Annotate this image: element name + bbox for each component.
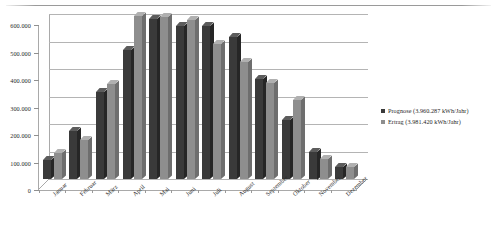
bar-side-face — [328, 156, 332, 179]
bar-front-face — [69, 131, 77, 179]
bar-prognose-januar[interactable] — [43, 160, 51, 179]
legend-label-ertrag: Ertrag (3.981.420 kWh/Jahr) — [388, 118, 461, 126]
y-axis-tick-label: 0 — [28, 187, 31, 194]
bar-front-face — [187, 20, 195, 179]
legend-swatch-icon-prognose — [381, 109, 385, 113]
bar-front-face — [255, 79, 263, 179]
bar-ertrag-september[interactable] — [266, 83, 274, 179]
bar-front-face — [229, 37, 237, 179]
bar-prognose-november[interactable] — [309, 152, 317, 180]
bar-front-face — [54, 153, 62, 179]
energy-yield-bar-chart: 600.000500.000400.000300.000200.000100.0… — [0, 0, 497, 238]
bar-front-face — [240, 62, 248, 179]
x-axis-labels: JanuarFebruarMärzAprilMaiJuniJuliAugustS… — [38, 192, 368, 238]
bar-ertrag-august[interactable] — [240, 62, 248, 179]
x-axis-tick — [225, 190, 226, 193]
y-axis-tick-label: 300.000 — [10, 104, 31, 111]
bar-side-face — [115, 81, 119, 179]
legend-item-ertrag[interactable]: Ertrag (3.981.420 kWh/Jahr) — [381, 118, 493, 126]
bar-front-face — [149, 19, 157, 179]
bar-front-face — [80, 140, 88, 179]
bar-side-face — [168, 14, 172, 179]
y-axis-tick-label: 200.000 — [10, 132, 31, 139]
x-axis-tick — [171, 190, 172, 193]
x-axis-tick — [251, 190, 252, 193]
y-axis-tick-label: 500.000 — [10, 49, 31, 56]
bar-prognose-märz[interactable] — [96, 92, 104, 179]
bar-prognose-august[interactable] — [229, 37, 237, 179]
x-axis-tick — [92, 190, 93, 193]
x-axis-tick — [118, 190, 119, 193]
bar-side-face — [274, 79, 278, 179]
bar-side-face — [142, 13, 146, 179]
x-axis-tick — [278, 190, 279, 193]
bar-front-face — [293, 100, 301, 179]
bar-front-face — [320, 159, 328, 179]
x-axis-tick — [198, 190, 199, 193]
chart-legend: Prognose (3.960.287 kWh/Jahr) Ertrag (3.… — [381, 107, 493, 129]
bar-front-face — [309, 152, 317, 180]
y-axis-tick-label: 600.000 — [10, 22, 31, 29]
bar-ertrag-juni[interactable] — [187, 20, 195, 179]
bar-ertrag-januar[interactable] — [54, 153, 62, 179]
bar-side-face — [62, 149, 66, 179]
bar-side-face — [195, 17, 199, 179]
y-axis-tick-label: 100.000 — [10, 159, 31, 166]
bar-ertrag-april[interactable] — [134, 16, 142, 179]
bar-side-face — [88, 136, 92, 179]
bar-side-face — [221, 41, 225, 179]
bars-layer — [38, 14, 368, 190]
bar-front-face — [176, 26, 184, 179]
bar-ertrag-mai[interactable] — [160, 17, 168, 179]
bar-prognose-april[interactable] — [123, 50, 131, 179]
bar-front-face — [134, 16, 142, 179]
legend-item-prognose[interactable]: Prognose (3.960.287 kWh/Jahr) — [381, 107, 493, 115]
bar-front-face — [96, 92, 104, 179]
x-axis-tick — [145, 190, 146, 193]
bar-prognose-september[interactable] — [255, 79, 263, 179]
x-axis-tick — [304, 190, 305, 193]
bar-prognose-juni[interactable] — [176, 26, 184, 179]
bar-ertrag-juli[interactable] — [213, 44, 221, 179]
bar-prognose-oktober[interactable] — [282, 120, 290, 179]
legend-label-prognose: Prognose (3.960.287 kWh/Jahr) — [388, 107, 469, 115]
x-axis-tick — [65, 190, 66, 193]
bar-ertrag-oktober[interactable] — [293, 100, 301, 179]
bar-ertrag-november[interactable] — [320, 159, 328, 179]
bar-side-face — [301, 96, 305, 179]
bar-front-face — [346, 167, 354, 179]
plot-area: 600.000500.000400.000300.000200.000100.0… — [38, 14, 368, 190]
bar-front-face — [213, 44, 221, 179]
bar-front-face — [107, 84, 115, 179]
bar-prognose-februar[interactable] — [69, 131, 77, 179]
bar-side-face — [354, 164, 358, 179]
bar-front-face — [43, 160, 51, 179]
bar-ertrag-februar[interactable] — [80, 140, 88, 179]
legend-swatch-icon-ertrag — [381, 120, 385, 124]
bar-prognose-mai[interactable] — [149, 19, 157, 179]
top-divider-rule — [6, 5, 491, 6]
bar-front-face — [282, 120, 290, 179]
bar-side-face — [248, 59, 252, 179]
bar-front-face — [266, 83, 274, 179]
x-axis-tick — [39, 190, 40, 193]
x-axis-tick — [331, 190, 332, 193]
bar-front-face — [160, 17, 168, 179]
bar-ertrag-märz[interactable] — [107, 84, 115, 179]
bar-front-face — [202, 26, 210, 179]
bar-ertrag-dezember[interactable] — [346, 167, 354, 179]
y-axis-tick-label: 400.000 — [10, 77, 31, 84]
bar-prognose-juli[interactable] — [202, 26, 210, 179]
bar-front-face — [123, 50, 131, 179]
